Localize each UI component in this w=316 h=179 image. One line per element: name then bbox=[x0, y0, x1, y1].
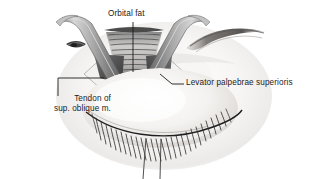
superior-oblique-tendon bbox=[66, 41, 86, 47]
label-orbital-fat: Orbital fat bbox=[108, 9, 145, 19]
label-levator-palpebrae-superioris: Levator palpebrae superioris bbox=[186, 78, 293, 88]
eyelid-anatomy-figure bbox=[0, 0, 316, 179]
label-tendon-line-1: Tendon of bbox=[74, 94, 111, 103]
illustration-root: Orbital fat Levator palpebrae superioris… bbox=[0, 0, 316, 179]
label-tendon-of-superior-oblique: Tendon of sup. oblique m. bbox=[33, 94, 111, 113]
label-tendon-line-2: sup. oblique m. bbox=[33, 104, 111, 114]
